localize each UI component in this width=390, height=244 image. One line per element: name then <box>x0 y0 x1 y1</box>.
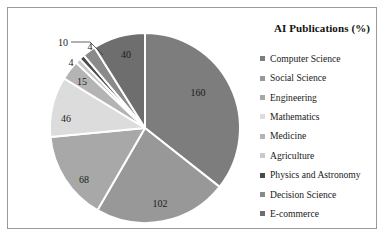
chart-legend: AI Publications (%) Computer ScienceSoci… <box>256 8 384 230</box>
legend-item[interactable]: Agriculture <box>258 146 384 165</box>
legend-item[interactable]: Mathematics <box>258 107 384 126</box>
chart-screenshot: 160102684615441040 AI Publications (%) C… <box>0 0 390 244</box>
slice-value-label: 160 <box>191 88 206 98</box>
legend-item-label: Physics and Astronomy <box>270 170 361 180</box>
legend-item-label: Mathematics <box>270 112 320 122</box>
slice-value-label: 46 <box>61 114 71 124</box>
legend-swatch-icon <box>260 95 265 100</box>
legend-item[interactable]: Physics and Astronomy <box>258 165 384 184</box>
chart-frame: 160102684615441040 AI Publications (%) C… <box>7 7 377 229</box>
pie-chart-svg <box>8 8 253 230</box>
slice-value-label: 4 <box>69 58 74 68</box>
slice-value-label: 4 <box>88 42 93 52</box>
legend-item-label: Engineering <box>270 93 317 103</box>
legend-swatch-icon <box>260 114 265 119</box>
legend-item[interactable]: Medicine <box>258 127 384 146</box>
legend-item-label: Social Science <box>270 73 326 83</box>
legend-swatch-icon <box>260 153 265 158</box>
legend-item[interactable]: E-commerce <box>258 204 384 223</box>
legend-item[interactable]: Engineering <box>258 88 384 107</box>
slice-value-label: 102 <box>153 199 168 209</box>
legend-items-list: Computer ScienceSocial ScienceEngineerin… <box>258 49 384 224</box>
slice-value-label: 68 <box>79 175 89 185</box>
legend-item-label: Agriculture <box>270 151 314 161</box>
legend-item-label: Computer Science <box>270 54 341 64</box>
legend-swatch-icon <box>260 76 265 81</box>
legend-item-label: Decision Science <box>270 190 336 200</box>
legend-title: AI Publications (%) <box>264 22 380 34</box>
legend-swatch-icon <box>260 134 265 139</box>
legend-item[interactable]: Computer Science <box>258 49 384 68</box>
legend-swatch-icon <box>260 173 265 178</box>
legend-swatch-icon <box>260 56 265 61</box>
slice-value-label: 40 <box>121 50 131 60</box>
slice-value-label: 15 <box>77 77 87 87</box>
legend-item-label: E-commerce <box>270 209 319 219</box>
legend-item[interactable]: Decision Science <box>258 185 384 204</box>
pie-chart-area: 160102684615441040 <box>8 8 253 230</box>
legend-item[interactable]: Social Science <box>258 68 384 87</box>
legend-swatch-icon <box>260 211 265 216</box>
legend-swatch-icon <box>260 192 265 197</box>
slice-value-label: 10 <box>58 38 68 48</box>
legend-item-label: Medicine <box>270 131 306 141</box>
